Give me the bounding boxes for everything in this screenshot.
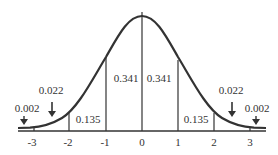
area-label-left-tail2: 0.022: [39, 84, 64, 96]
arrow-down-icon: [48, 102, 56, 117]
tick-label: -2: [63, 136, 72, 148]
area-label-right-tail2: 0.022: [219, 84, 244, 96]
area-label-right-mid: 0.135: [184, 113, 209, 125]
arrow-down-icon: [228, 102, 236, 117]
arrow-down-icon: [20, 116, 28, 125]
tick-label: 2: [211, 136, 217, 148]
tick-label: 0: [139, 136, 145, 148]
area-label-right-center: 0.341: [147, 72, 172, 84]
area-label-left-center: 0.341: [114, 72, 139, 84]
area-label-right-tail3: 0.002: [245, 102, 270, 114]
arrow-down-icon: [252, 116, 260, 125]
tick-label: 3: [247, 136, 253, 148]
tick-label: -1: [100, 136, 109, 148]
area-label-left-mid: 0.135: [76, 113, 101, 125]
area-label-left-tail3: 0.002: [15, 102, 40, 114]
tick-label: -3: [27, 136, 37, 148]
normal-distribution-diagram: -3 -2 -1 0 1 2 3 0.341 0.341 0.135 0.135…: [0, 0, 278, 155]
tick-label: 1: [175, 136, 181, 148]
